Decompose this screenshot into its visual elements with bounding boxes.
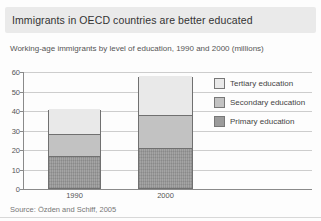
y-axis-tickmark bbox=[20, 92, 23, 93]
bar-segment-primary bbox=[49, 156, 100, 188]
legend-label: Tertiary education bbox=[230, 79, 293, 88]
legend-item: Secondary education bbox=[213, 95, 312, 110]
bar-segment-secondary bbox=[49, 134, 100, 155]
stacked-bar-2000 bbox=[138, 77, 193, 189]
x-axis-tick-label: 1990 bbox=[55, 191, 95, 200]
chart-area: 0102030405060 Tertiary educationSecondar… bbox=[0, 0, 321, 221]
plot-area: Tertiary educationSecondary educationPri… bbox=[23, 72, 312, 189]
y-axis-tick-label: 20 bbox=[0, 146, 20, 155]
y-axis-tick-label: 0 bbox=[0, 185, 20, 194]
bar-segment-tertiary bbox=[49, 109, 100, 134]
bar-segment-secondary bbox=[139, 115, 192, 148]
source-note: Source: Özden and Schiff, 2005 bbox=[10, 205, 116, 214]
bar-segment-tertiary bbox=[139, 76, 192, 115]
x-axis-baseline bbox=[23, 189, 312, 190]
y-axis-tick-labels: 0102030405060 bbox=[0, 72, 20, 189]
legend-item: Primary education bbox=[213, 114, 312, 129]
bottom-divider bbox=[0, 217, 321, 218]
legend-swatch bbox=[214, 116, 225, 127]
legend-label: Primary education bbox=[230, 117, 294, 126]
y-axis-line bbox=[23, 72, 24, 189]
legend-item: Tertiary education bbox=[213, 76, 312, 91]
legend-swatch bbox=[214, 97, 225, 108]
gridline bbox=[23, 72, 312, 73]
chart-card: Immigrants in OECD countries are better … bbox=[0, 0, 321, 221]
y-axis-tickmark bbox=[20, 72, 23, 73]
y-axis-tickmark bbox=[20, 150, 23, 151]
legend-label: Secondary education bbox=[230, 98, 305, 107]
bar-segment-primary bbox=[139, 148, 192, 188]
y-axis-tickmark bbox=[20, 170, 23, 171]
stacked-bar-1990 bbox=[48, 110, 101, 189]
y-axis-tickmark bbox=[20, 131, 23, 132]
y-axis-tickmark bbox=[20, 111, 23, 112]
legend-swatch bbox=[214, 78, 225, 89]
y-axis-tick-label: 50 bbox=[0, 88, 20, 97]
y-axis-tick-label: 10 bbox=[0, 166, 20, 175]
y-axis-tick-label: 60 bbox=[0, 68, 20, 77]
y-axis-tick-label: 30 bbox=[0, 127, 20, 136]
y-axis-tickmark bbox=[20, 189, 23, 190]
y-axis-tick-label: 40 bbox=[0, 107, 20, 116]
x-axis-tick-label: 2000 bbox=[146, 191, 186, 200]
